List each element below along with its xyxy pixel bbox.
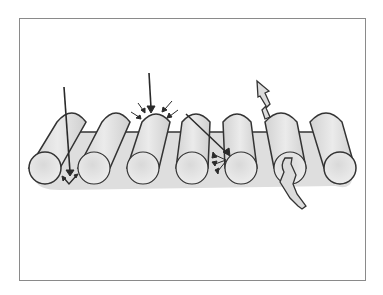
fiber-illustration <box>0 0 383 295</box>
cylinder-4 <box>176 114 210 184</box>
ray-incident-icon <box>131 73 178 119</box>
